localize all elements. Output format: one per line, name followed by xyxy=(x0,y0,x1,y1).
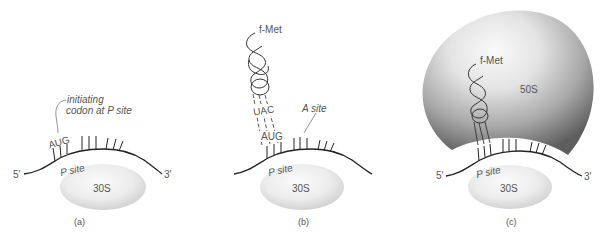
a-site-leader-line xyxy=(304,113,316,133)
annotation-leader-line xyxy=(56,100,66,133)
three-prime-label: 3' xyxy=(164,169,172,180)
subunit-30s-label: 30S xyxy=(500,183,518,194)
amino-acid-fmet-label: f-Met xyxy=(480,55,503,66)
panel-c: f-Met 50S P site 30S 5' 3' (c) xyxy=(423,11,594,227)
ribosome-50s-subunit xyxy=(423,11,594,155)
trna-helix xyxy=(247,33,269,95)
panel-b: f-Met UAC AUG A site P site 30S (b) xyxy=(234,24,372,227)
amino-acid-fmet-label: f-Met xyxy=(259,24,282,35)
panel-a: initiating codon at P site AUG P site 30… xyxy=(13,94,172,227)
five-prime-label: 5' xyxy=(13,169,21,180)
subunit-50s-label: 50S xyxy=(520,84,538,95)
ribosome-initiation-figure: initiating codon at P site AUG P site 30… xyxy=(0,0,605,237)
a-site-label: A site xyxy=(301,103,327,114)
subunit-30s-label: 30S xyxy=(93,183,111,194)
subunit-30s-label: 30S xyxy=(292,183,310,194)
codon-aug-label: AUG xyxy=(261,131,283,142)
annotation-codon-at-p-site: codon at P site xyxy=(66,105,132,116)
panel-caption-c: (c) xyxy=(506,217,517,227)
annotation-initiating: initiating xyxy=(67,94,104,105)
panel-caption-a: (a) xyxy=(74,217,85,227)
three-prime-label: 3' xyxy=(584,171,592,182)
panel-caption-b: (b) xyxy=(298,217,309,227)
five-prime-label: 5' xyxy=(436,170,444,181)
codon-ticks xyxy=(478,139,546,161)
